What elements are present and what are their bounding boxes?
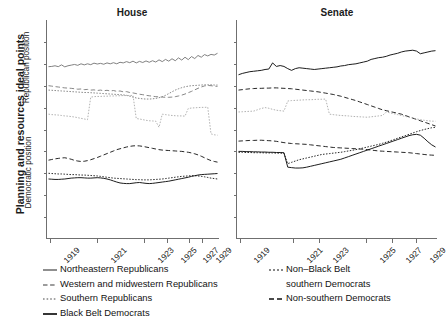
- x-axis-tick: [240, 239, 241, 243]
- legend-non-black-belt-southern-democrats[interactable]: Non–Black Belt: [268, 262, 438, 277]
- legend-column-right: Non–Black Beltsouthern DemocratsNon-sout…: [268, 262, 438, 306]
- series-line: [239, 140, 436, 155]
- legend-label: Northeastern Republicans: [60, 262, 168, 277]
- legend-label: Western and midwestern Republicans: [60, 277, 218, 292]
- panel-title-house: House: [46, 7, 218, 18]
- series-line: [239, 127, 436, 163]
- legend-label-continued: southern Democrats: [268, 277, 438, 292]
- x-axis-tick: [392, 239, 393, 243]
- legend-label: Non–Black Belt: [286, 262, 350, 277]
- x-axis-tick: [202, 239, 203, 243]
- legend-label: Non-southern Democrats: [286, 291, 391, 306]
- x-axis-tick: [366, 239, 367, 243]
- x-axis-tick: [50, 239, 51, 243]
- legend-label: Black Belt Democrats: [60, 306, 150, 321]
- x-axis-tick: [167, 239, 168, 243]
- legend-line-sample-icon: [42, 262, 60, 277]
- x-axis-tick: [416, 239, 417, 243]
- plot-panel-senate: 191919211923192519271929: [236, 20, 437, 239]
- legend-line-sample-icon: [42, 277, 60, 292]
- series-line: [239, 50, 436, 75]
- series-line: [239, 88, 436, 126]
- legend-non-southern-democrats[interactable]: Non-southern Democrats: [268, 291, 438, 306]
- x-axis-tick: [189, 239, 190, 243]
- x-axis-tick: [97, 239, 98, 243]
- series-line: [239, 134, 436, 168]
- series-line: [239, 99, 436, 121]
- y-axis-label-democratic-position: Democratic position: [24, 127, 33, 219]
- legend-line-sample-icon: [42, 306, 60, 321]
- series-line: [49, 95, 218, 135]
- legend-line-sample-icon: [268, 291, 286, 306]
- legend-black-belt-democrats[interactable]: Black Belt Democrats: [42, 306, 257, 321]
- legend-line-sample-icon: [42, 291, 60, 306]
- y-axis-label-republican-position: Republican position: [22, 23, 31, 113]
- legend-northeastern-republicans[interactable]: Northeastern Republicans: [42, 262, 257, 277]
- x-axis-tick: [293, 239, 294, 243]
- legend-line-sample-icon: [268, 262, 286, 277]
- series-line: [49, 53, 218, 67]
- series-line: [49, 146, 218, 162]
- legend-southern-republicans[interactable]: Southern Republicans: [42, 291, 257, 306]
- plot-panel-house: 191919211923192519271929: [46, 20, 219, 239]
- series-layer: [237, 20, 437, 239]
- legend: Northeastern RepublicansWestern and midw…: [0, 262, 438, 332]
- panel-title-senate: Senate: [238, 7, 436, 18]
- x-axis-tick: [319, 239, 320, 243]
- legend-western-midwestern-republicans[interactable]: Western and midwestern Republicans: [42, 277, 257, 292]
- series-layer: [47, 20, 219, 239]
- legend-column-left: Northeastern RepublicansWestern and midw…: [42, 262, 257, 320]
- x-axis-tick: [144, 239, 145, 243]
- legend-label: Southern Republicans: [60, 291, 152, 306]
